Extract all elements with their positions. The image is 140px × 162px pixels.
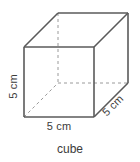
edge-depth-top-right: [94, 13, 128, 47]
width-dimension-label: 5 cm: [25, 121, 93, 132]
height-dimension-label: 5 cm: [8, 65, 19, 109]
cube-figure: 5 cm 5 cm 5 cm cube: [0, 0, 140, 162]
edge-depth-top-left: [24, 13, 58, 47]
cube-diagram: [0, 0, 140, 162]
hidden-edge-bottom-left-depth: [24, 83, 58, 117]
figure-caption: cube: [0, 142, 140, 156]
